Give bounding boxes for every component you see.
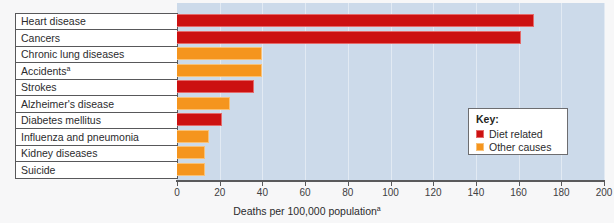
gridline-200 [604,3,605,180]
bar [177,80,254,93]
category-row: Chronic lung diseases [16,47,177,64]
x-tick [433,181,434,186]
bar-slot [177,79,604,96]
bar-slot [177,29,604,46]
bar-slot [177,62,604,79]
bar [177,47,262,60]
x-tick-label: 140 [468,187,485,198]
x-tick-label: 160 [510,187,527,198]
category-label: Influenza and pneumonia [21,132,139,143]
bar [177,163,205,176]
category-row: Suicide [16,162,177,179]
category-row: Diabetes mellitus [16,113,177,130]
category-label-superscript: a [67,64,71,71]
legend-items: Diet relatedOther causes [476,128,567,153]
category-label: Kidney diseases [21,148,97,159]
x-tick-label: 80 [342,187,353,198]
legend-item: Other causes [476,141,567,153]
x-tick-label: 40 [257,187,268,198]
x-tick-label: 20 [214,187,225,198]
category-row: Accidentsa [16,63,177,80]
x-tick [220,181,221,186]
bar [177,113,222,126]
category-label: Diabetes mellitus [21,115,101,126]
category-label: Cancers [21,33,60,44]
category-label: Heart disease [21,16,86,27]
x-tick [305,181,306,186]
category-row: Alzheimer's disease [16,96,177,113]
x-tick [604,181,605,186]
x-tick [177,181,178,186]
x-tick [519,181,520,186]
category-label: Chronic lung diseases [21,49,124,60]
x-tick-label: 60 [300,187,311,198]
bar-slot [177,46,604,63]
category-row: Heart disease [16,14,177,31]
x-tick [561,181,562,186]
x-tick-label: 120 [425,187,442,198]
bar [177,146,205,159]
category-label: Suicide [21,165,55,176]
category-label: Accidentsa [21,66,70,77]
legend-label: Other causes [489,141,551,153]
category-row: Influenza and pneumonia [16,129,177,146]
bar-slot [177,161,604,178]
category-label-table: Heart diseaseCancersChronic lung disease… [15,13,178,179]
category-label: Alzheimer's disease [21,99,114,110]
bar [177,64,262,77]
x-tick-label: 100 [382,187,399,198]
x-tick-label: 200 [596,187,613,198]
legend-swatch-icon [476,130,484,138]
legend-swatch-icon [476,143,484,151]
legend-key-box: Key: Diet relatedOther causes [468,108,568,155]
legend-title: Key: [476,113,567,125]
legend-label: Diet related [489,128,543,140]
x-tick [348,181,349,186]
category-label: Strokes [21,82,57,93]
x-axis-title: Deaths per 100,000 populationa [0,205,614,217]
category-row: Strokes [16,80,177,97]
category-row: Cancers [16,30,177,47]
bar [177,97,230,110]
bar [177,130,209,143]
x-tick-label: 0 [174,187,180,198]
bar [177,14,534,27]
legend-item: Diet related [476,128,567,140]
x-tick [262,181,263,186]
x-tick-label: 180 [553,187,570,198]
x-axis-title-superscript: a [377,205,381,212]
x-tick [476,181,477,186]
category-row: Kidney diseases [16,146,177,163]
deaths-by-cause-bar-chart: Heart diseaseCancersChronic lung disease… [0,0,614,223]
x-tick [391,181,392,186]
bar [177,31,521,44]
bar-slot [177,13,604,30]
